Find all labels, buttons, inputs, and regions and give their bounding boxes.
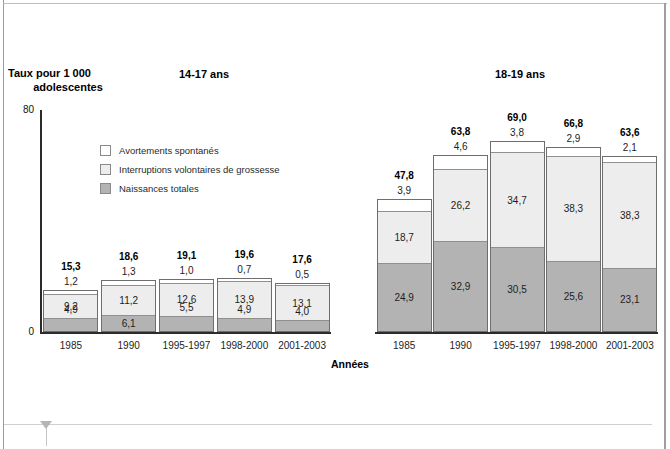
bar-segment-value: 38,3: [620, 210, 639, 221]
bar-group: 4,626,232,963,8: [433, 110, 488, 332]
bar-segment[interactable]: 3,8: [491, 142, 544, 152]
bar-total-value: 47,8: [377, 170, 432, 181]
bottom-rule: [4, 424, 652, 425]
bar-segment-value: 24,9: [394, 292, 413, 303]
bar-segment-value: 11,2: [119, 295, 138, 306]
bar-total-value: 63,8: [433, 126, 488, 137]
bar-segment-value: 5,5: [160, 302, 213, 313]
stacked-bar[interactable]: 1,29,24,9: [43, 290, 98, 332]
bar-segment[interactable]: 26,2: [434, 169, 487, 241]
bar-segment-value: 25,6: [564, 291, 583, 302]
bar-segment-value: 32,9: [451, 281, 470, 292]
x-axis-caption: Années: [300, 358, 400, 370]
plot-area-left: 1,29,24,915,31,311,26,118,61,012,65,519,…: [42, 110, 331, 332]
bar-segment-value: 23,1: [620, 294, 639, 305]
bar-segment[interactable]: 38,3: [547, 156, 600, 261]
bar-segment[interactable]: 23,1: [603, 268, 656, 331]
bar-segment-value: 6,1: [122, 318, 136, 329]
bar-total-value: 15,3: [43, 261, 98, 272]
page-pin-marker-icon: [40, 421, 53, 447]
bar-segment-value: 0,7: [218, 264, 271, 275]
x-tick-label: 2001-2003: [267, 340, 338, 351]
stacked-bar[interactable]: 0,513,14,0: [275, 283, 330, 332]
stacked-bar[interactable]: 1,311,26,1: [101, 280, 156, 332]
bar-group: 3,918,724,947,8: [377, 110, 432, 332]
stacked-bar[interactable]: 2,938,325,6: [546, 147, 601, 332]
bar-segment[interactable]: 4,6: [434, 156, 487, 169]
bar-segment-value: 38,3: [564, 203, 583, 214]
bar-total-value: 63,6: [602, 127, 657, 138]
bar-segment-value: 4,9: [218, 304, 271, 315]
bar-segment[interactable]: 34,7: [491, 152, 544, 247]
page-frame-top: [3, 3, 667, 4]
bar-segment-value: 3,8: [491, 127, 544, 138]
bar-group: 2,938,325,666,8: [546, 110, 601, 332]
bar-segment[interactable]: 2,9: [547, 148, 600, 156]
bar-segment-value: 26,2: [451, 200, 470, 211]
y-tick-label-0: 0: [8, 326, 34, 337]
bar-group: 0,713,94,919,6: [217, 110, 272, 332]
bar-group: 1,29,24,915,3: [43, 110, 98, 332]
bar-segment[interactable]: 6,1: [102, 315, 155, 331]
bar-segment[interactable]: 24,9: [378, 263, 431, 331]
y-axis-title: Taux pour 1 000 adolescentes: [8, 66, 128, 94]
bar-segment-value: 18,7: [394, 232, 413, 243]
bar-total-value: 18,6: [101, 251, 156, 262]
bar-segment-value: 2,1: [603, 142, 656, 153]
panel-title-right: 18-19 ans: [440, 68, 600, 80]
bar-segment[interactable]: 30,5: [491, 247, 544, 331]
bar-segment[interactable]: 3,9: [378, 200, 431, 211]
bar-segment[interactable]: 38,3: [603, 162, 656, 267]
bar-total-value: 19,6: [217, 249, 272, 260]
bar-total-value: 19,1: [159, 250, 214, 261]
bar-segment[interactable]: 18,7: [378, 211, 431, 262]
bar-segment[interactable]: 4,9: [218, 318, 271, 331]
stacked-bar[interactable]: 4,626,232,9: [433, 155, 488, 332]
bar-segment[interactable]: 4,9: [44, 318, 97, 331]
bar-group: 3,834,730,569,0: [490, 110, 545, 332]
x-axis-line-right: [375, 332, 658, 334]
bar-group: 2,138,323,163,6: [602, 110, 657, 332]
bar-total-value: 17,6: [275, 254, 330, 265]
bar-segment-value: 3,9: [378, 185, 431, 196]
page-frame-right: [664, 3, 666, 449]
plot-area-right: 3,918,724,947,84,626,232,963,83,834,730,…: [376, 110, 658, 332]
stacked-bar[interactable]: 3,918,724,9: [377, 199, 432, 332]
bar-segment[interactable]: 5,5: [160, 316, 213, 331]
stacked-bar[interactable]: 2,138,323,1: [602, 156, 657, 332]
bar-group: 1,012,65,519,1: [159, 110, 214, 332]
bar-total-value: 66,8: [546, 118, 601, 129]
pin-stem: [46, 428, 47, 446]
panel-title-left: 14-17 ans: [124, 68, 284, 80]
bar-total-value: 69,0: [490, 112, 545, 123]
page-frame-left: [3, 0, 4, 449]
bar-segment[interactable]: 11,2: [102, 285, 155, 315]
bar-segment-value: 4,0: [276, 306, 329, 317]
y-axis-title-line1: Taux pour 1 000: [8, 66, 128, 80]
stacked-bar[interactable]: 1,012,65,5: [159, 279, 214, 332]
figure-canvas: Taux pour 1 000 adolescentes 14-17 ans 1…: [0, 0, 670, 449]
bar-segment-value: 30,5: [507, 284, 526, 295]
bar-group: 1,311,26,118,6: [101, 110, 156, 332]
y-axis-title-line2: adolescentes: [8, 80, 128, 94]
bar-group: 0,513,14,017,6: [275, 110, 330, 332]
bar-segment-value: 0,5: [276, 269, 329, 280]
bar-segment-value: 1,0: [160, 265, 213, 276]
bar-segment-value: 1,2: [44, 276, 97, 287]
x-tick-label: 2001-2003: [594, 340, 665, 351]
stacked-bar[interactable]: 3,834,730,5: [490, 141, 545, 332]
stacked-bar[interactable]: 0,713,94,9: [217, 278, 272, 332]
bar-segment-value: 1,3: [102, 266, 155, 277]
bar-segment-value: 34,7: [507, 195, 526, 206]
bar-segment-value: 2,9: [547, 133, 600, 144]
bar-segment-value: 4,9: [44, 304, 97, 315]
x-axis-line-left: [40, 332, 331, 334]
bar-segment-value: 4,6: [434, 141, 487, 152]
bar-segment[interactable]: 25,6: [547, 261, 600, 331]
bar-segment[interactable]: 4,0: [276, 320, 329, 331]
y-tick-label-80: 80: [8, 104, 34, 115]
bar-segment[interactable]: 32,9: [434, 241, 487, 331]
